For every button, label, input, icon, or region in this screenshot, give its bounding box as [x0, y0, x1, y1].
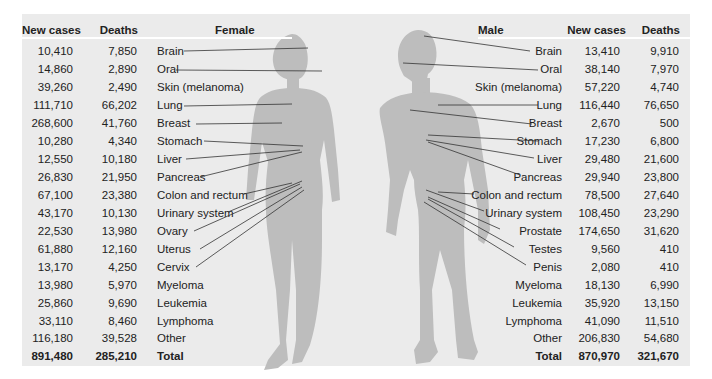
- male-total-deaths: 321,670: [630, 349, 679, 363]
- female-site: Breast: [157, 116, 190, 130]
- female-deaths: 41,760: [84, 116, 137, 130]
- male-new-cases: 38,140: [566, 62, 620, 76]
- female-deaths: 13,980: [84, 224, 137, 238]
- male-site: Urinary system: [462, 206, 562, 220]
- female-new-cases: 25,860: [22, 296, 73, 310]
- female-site: Brain: [157, 44, 184, 58]
- male-deaths: 6,800: [630, 134, 679, 148]
- male-site: Pancreas: [470, 170, 562, 184]
- female-total-new-cases: 891,480: [22, 349, 73, 363]
- female-deaths: 7,850: [84, 44, 137, 58]
- female-deaths: 10,130: [84, 206, 137, 220]
- male-deaths: 54,680: [630, 331, 679, 345]
- male-site: Prostate: [470, 224, 562, 238]
- male-deaths: 76,650: [630, 98, 679, 112]
- female-deaths: 4,250: [84, 260, 137, 274]
- female-new-cases: 61,880: [22, 242, 73, 256]
- female-silhouette-icon: [246, 34, 340, 370]
- female-site: Oral: [157, 62, 179, 76]
- female-site: Myeloma: [157, 278, 204, 292]
- male-new-cases: 174,650: [566, 224, 620, 238]
- female-site: Cervix: [157, 260, 190, 274]
- male-new-cases: 13,410: [566, 44, 620, 58]
- male-total-new-cases: 870,970: [566, 349, 620, 363]
- female-header-divider: [22, 37, 292, 39]
- male-new-cases: 29,940: [566, 170, 620, 184]
- female-new-cases: 13,170: [22, 260, 73, 274]
- male-site: Colon and rectum: [462, 188, 562, 202]
- female-total-label: Total: [157, 349, 184, 363]
- female-new-cases: 43,170: [22, 206, 73, 220]
- female-new-cases: 10,410: [22, 44, 73, 58]
- female-site: Liver: [157, 152, 182, 166]
- male-deaths-header: Deaths: [630, 23, 680, 37]
- male-deaths: 410: [630, 260, 679, 274]
- male-deaths: 23,800: [630, 170, 679, 184]
- female-deaths-header: Deaths: [84, 23, 138, 37]
- male-deaths: 13,150: [630, 296, 679, 310]
- female-new-cases: 39,260: [22, 80, 73, 94]
- female-site: Uterus: [157, 242, 191, 256]
- male-deaths: 500: [630, 116, 679, 130]
- male-deaths: 31,620: [630, 224, 679, 238]
- female-site: Other: [157, 331, 186, 345]
- male-site: Other: [470, 331, 562, 345]
- female-site: Pancreas: [157, 170, 206, 184]
- male-site: Brain: [470, 44, 562, 58]
- male-title: Male: [478, 23, 504, 37]
- male-header-divider: [478, 37, 690, 39]
- male-new-cases: 2,080: [566, 260, 620, 274]
- female-site: Lung: [157, 98, 183, 112]
- female-new-cases: 116,180: [22, 331, 73, 345]
- female-new-cases: 67,100: [22, 188, 73, 202]
- female-new-cases: 268,600: [22, 116, 73, 130]
- female-deaths: 66,202: [84, 98, 137, 112]
- female-site: Urinary system: [157, 206, 234, 220]
- male-site: Lung: [470, 98, 562, 112]
- female-new-cases: 10,280: [22, 134, 73, 148]
- female-site: Lymphoma: [157, 314, 213, 328]
- male-new-cases: 35,920: [566, 296, 620, 310]
- male-new-cases: 41,090: [566, 314, 620, 328]
- male-deaths: 9,910: [630, 44, 679, 58]
- female-site: Stomach: [157, 134, 202, 148]
- male-site: Lymphoma: [470, 314, 562, 328]
- male-total-label: Total: [470, 349, 562, 363]
- male-site: Liver: [470, 152, 562, 166]
- male-new-cases: 17,230: [566, 134, 620, 148]
- male-new-cases: 2,670: [566, 116, 620, 130]
- female-site: Leukemia: [157, 296, 207, 310]
- male-deaths: 23,290: [630, 206, 679, 220]
- female-deaths: 23,380: [84, 188, 137, 202]
- female-site: Colon and rectum: [157, 188, 248, 202]
- male-deaths: 27,640: [630, 188, 679, 202]
- male-new-cases: 57,220: [566, 80, 620, 94]
- female-deaths: 2,890: [84, 62, 137, 76]
- male-deaths: 21,600: [630, 152, 679, 166]
- female-new-cases: 14,860: [22, 62, 73, 76]
- female-site: Ovary: [157, 224, 188, 238]
- male-site: Skin (melanoma): [462, 80, 562, 94]
- female-new-cases: 33,110: [22, 314, 73, 328]
- female-deaths: 5,970: [84, 278, 137, 292]
- female-deaths: 39,528: [84, 331, 137, 345]
- male-site: Penis: [470, 260, 562, 274]
- female-deaths: 9,690: [84, 296, 137, 310]
- male-new-cases: 18,130: [566, 278, 620, 292]
- male-deaths: 11,510: [630, 314, 679, 328]
- male-site: Myeloma: [470, 278, 562, 292]
- male-new-cases: 206,830: [566, 331, 620, 345]
- female-title: Female: [215, 23, 255, 37]
- female-new-cases-header: New cases: [22, 23, 80, 37]
- female-new-cases: 12,550: [22, 152, 73, 166]
- male-new-cases: 78,500: [566, 188, 620, 202]
- male-deaths: 4,740: [630, 80, 679, 94]
- female-site: Skin (melanoma): [157, 80, 244, 94]
- male-new-cases: 116,440: [566, 98, 620, 112]
- male-new-cases: 108,450: [566, 206, 620, 220]
- male-site: Breast: [470, 116, 562, 130]
- female-deaths: 4,340: [84, 134, 137, 148]
- female-new-cases: 22,530: [22, 224, 73, 238]
- female-deaths: 2,490: [84, 80, 137, 94]
- male-deaths: 7,970: [630, 62, 679, 76]
